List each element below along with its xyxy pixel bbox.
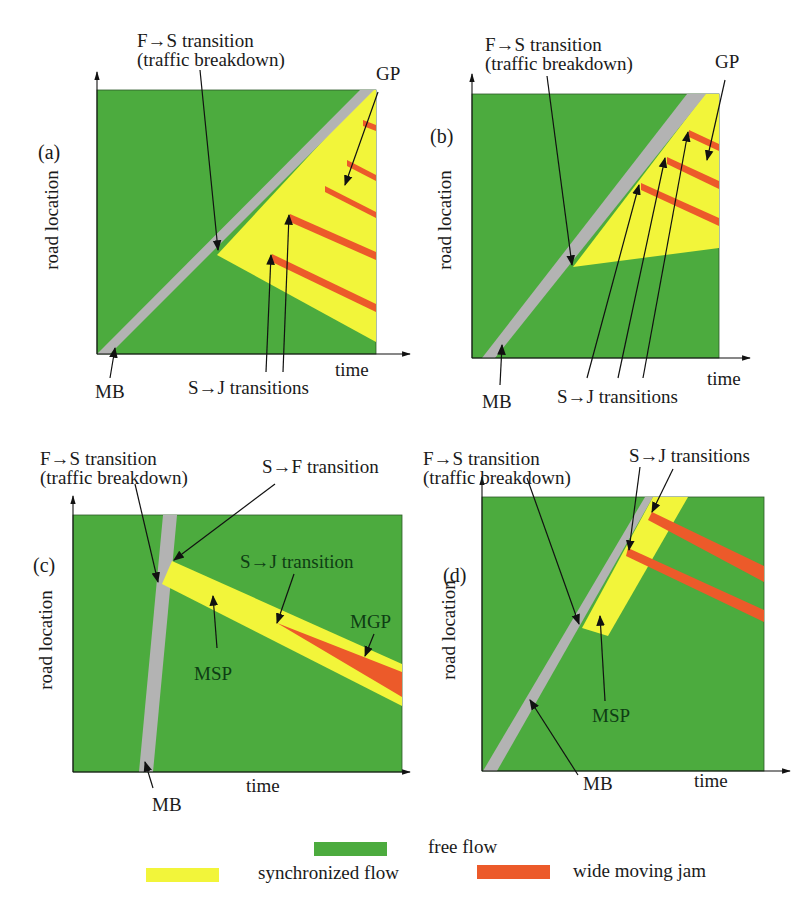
x-axis-label: time bbox=[707, 368, 741, 389]
x-axis-label: time bbox=[335, 359, 369, 380]
y-axis-label: road location bbox=[434, 170, 455, 270]
legend-item-synchronized-flow: synchronized flow bbox=[146, 862, 399, 883]
annotation-label: F→S transition bbox=[485, 34, 602, 55]
y-axis-label: road location bbox=[438, 580, 459, 680]
panel-label: (d) bbox=[443, 564, 466, 587]
annotation-label: GP bbox=[376, 63, 400, 84]
annotation: MB bbox=[95, 348, 125, 402]
annotation-label: S→J transitions bbox=[629, 445, 750, 466]
annotation-label: (traffic breakdown) bbox=[423, 467, 571, 489]
legend-label: synchronized flow bbox=[258, 862, 399, 883]
legend-item-free-flow: free flow bbox=[314, 836, 497, 857]
annotation-label: MB bbox=[482, 391, 512, 412]
legend-swatch bbox=[314, 842, 387, 856]
annotation-label: S→F transition bbox=[262, 456, 379, 477]
annotation-label: F→S transition bbox=[137, 30, 254, 51]
legend: free flowsynchronized flowwide moving ja… bbox=[146, 836, 706, 883]
annotation-label: (traffic breakdown) bbox=[485, 53, 633, 75]
annotation-label: MB bbox=[152, 794, 182, 815]
annotation-label: MSP bbox=[592, 705, 630, 726]
x-axis-label: time bbox=[694, 770, 728, 791]
annotation-label: MB bbox=[583, 773, 613, 794]
annotation-label: (traffic breakdown) bbox=[137, 49, 285, 71]
panel-label: (a) bbox=[38, 141, 60, 164]
annotation-label: S→J transitions bbox=[188, 377, 309, 398]
panel-label: (b) bbox=[430, 125, 453, 148]
panel-c: timeroad location(c)F→S transition(traff… bbox=[33, 448, 410, 815]
annotation-label: MGP bbox=[350, 611, 391, 632]
annotation-label: GP bbox=[715, 51, 739, 72]
legend-swatch bbox=[146, 868, 219, 882]
legend-label: wide moving jam bbox=[573, 860, 706, 881]
y-axis-label: road location bbox=[35, 590, 56, 690]
panel-b: timeroad location(b)F→S transition(traff… bbox=[430, 34, 750, 412]
annotation-label: MSP bbox=[194, 663, 232, 684]
annotation-label: S→J transition bbox=[240, 551, 354, 572]
x-axis-label: time bbox=[246, 775, 280, 796]
annotation-label: MB bbox=[95, 381, 125, 402]
panel-label: (c) bbox=[33, 554, 55, 577]
annotation-label: F→S transition bbox=[40, 448, 157, 469]
annotation-label: F→S transition bbox=[423, 448, 540, 469]
legend-label: free flow bbox=[428, 836, 497, 857]
panel-d: timeroad location(d)F→S transition(traff… bbox=[423, 445, 790, 794]
y-axis-label: road location bbox=[41, 170, 62, 270]
legend-swatch bbox=[477, 865, 550, 879]
annotation-label: S→J transitions bbox=[557, 386, 678, 407]
legend-item-wide-moving-jam: wide moving jam bbox=[477, 860, 706, 881]
panel-a: timeroad location(a)F→S transition(traff… bbox=[38, 30, 410, 402]
annotation-label: (traffic breakdown) bbox=[40, 467, 188, 489]
panels-container: timeroad location(a)F→S transition(traff… bbox=[33, 30, 790, 815]
traffic-phase-diagram: timeroad location(a)F→S transition(traff… bbox=[0, 0, 806, 915]
